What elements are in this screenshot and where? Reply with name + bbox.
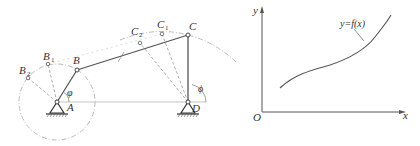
label-B: B xyxy=(73,54,80,66)
dashed-D-C1 xyxy=(162,34,188,102)
dashed-A-B2 xyxy=(28,78,57,102)
label-A: A xyxy=(66,101,74,113)
curve-label: y=f(x) xyxy=(339,18,366,30)
label-B1-sub: 1 xyxy=(51,56,55,64)
dashed-D-C2 xyxy=(140,43,188,102)
function-curve xyxy=(280,15,391,88)
label-phi-output: ϕ xyxy=(198,83,203,94)
joint-B1 xyxy=(46,62,50,66)
x-axis-label: x xyxy=(402,109,408,121)
joint-A xyxy=(55,100,59,104)
y-axis-arrow xyxy=(260,6,264,13)
label-phi-input: φ xyxy=(67,87,73,98)
coupler-BC xyxy=(77,35,188,70)
dashed-A-B1 xyxy=(48,64,57,102)
label-C1-sub: 1 xyxy=(165,24,169,32)
label-B2-sub: 2 xyxy=(27,70,31,78)
label-C: C xyxy=(189,20,197,32)
origin-label: O xyxy=(253,111,261,123)
joint-C2 xyxy=(138,41,142,45)
label-B1: B xyxy=(43,50,50,62)
curve-label-leader xyxy=(354,29,364,41)
four-bar-mechanism: A B B 1 B 2 C C 1 C 2 D φ ϕ xyxy=(19,18,236,140)
function-plot: y x O y=f(x) xyxy=(252,4,408,123)
y-axis-label: y xyxy=(252,4,258,16)
label-B2: B xyxy=(19,64,26,76)
joint-C xyxy=(186,33,190,37)
joint-D xyxy=(186,100,190,104)
label-C2: C xyxy=(131,25,139,37)
joint-C1 xyxy=(160,32,164,36)
label-C1: C xyxy=(157,18,165,30)
figure: A B B 1 B 2 C C 1 C 2 D φ ϕ y x O y=f(x) xyxy=(0,0,420,146)
label-C2-sub: 2 xyxy=(139,31,143,39)
label-D: D xyxy=(191,102,200,114)
joint-B xyxy=(75,68,79,72)
